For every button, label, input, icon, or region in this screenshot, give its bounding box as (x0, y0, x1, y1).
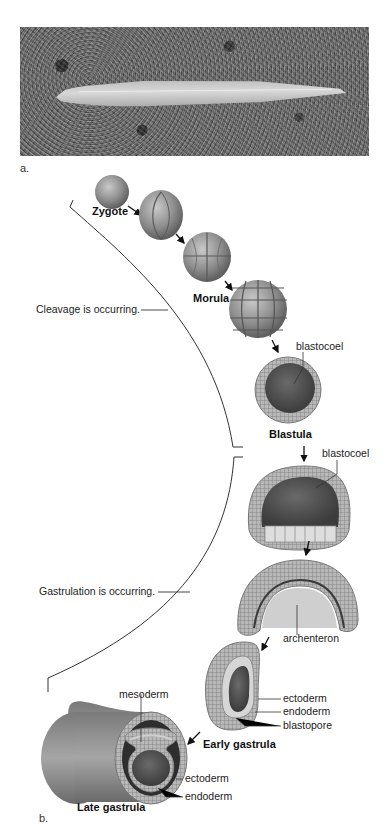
annotation-mesoderm: mesoderm (119, 688, 169, 700)
panel-b-label: b. (39, 812, 48, 824)
invagination-illustration (238, 560, 358, 635)
gastrulation-bracket (48, 457, 243, 692)
eight-cell-illustration (183, 232, 231, 282)
development-diagram (0, 0, 389, 824)
annotation-late-ectoderm: ectoderm (185, 772, 229, 784)
annotation-blastula-blastocoel: blastocoel (296, 340, 343, 352)
stage-label-blastula: Blastula (269, 428, 312, 440)
late-gastrula-illustration (41, 701, 187, 804)
stage-label-zygote: Zygote (92, 205, 128, 217)
two-cell-illustration (139, 190, 183, 240)
early-gastrula-illustration (205, 642, 260, 730)
phase-label-gastrulation: Gastrulation is occurring. (39, 585, 155, 597)
annotation-gastrula-blastocoel: blastocoel (322, 447, 369, 459)
annotation-early-ectoderm: ectoderm (283, 692, 327, 704)
morula-illustration (229, 280, 287, 338)
blastula-illustration (255, 357, 321, 423)
zygote-illustration (95, 175, 129, 209)
annotation-early-endoderm: endoderm (283, 705, 330, 717)
annotation-archenteron: archenteron (283, 632, 339, 644)
annotation-blastopore: blastopore (283, 719, 332, 731)
phase-label-cleavage: Cleavage is occurring. (36, 303, 140, 315)
stage-label-morula: Morula (193, 292, 229, 304)
gastrulation-start-illustration (248, 466, 350, 550)
stage-label-early-gastrula: Early gastrula (203, 738, 276, 750)
stage-label-late-gastrula: Late gastrula (77, 801, 145, 813)
annotation-late-endoderm: endoderm (185, 790, 232, 802)
